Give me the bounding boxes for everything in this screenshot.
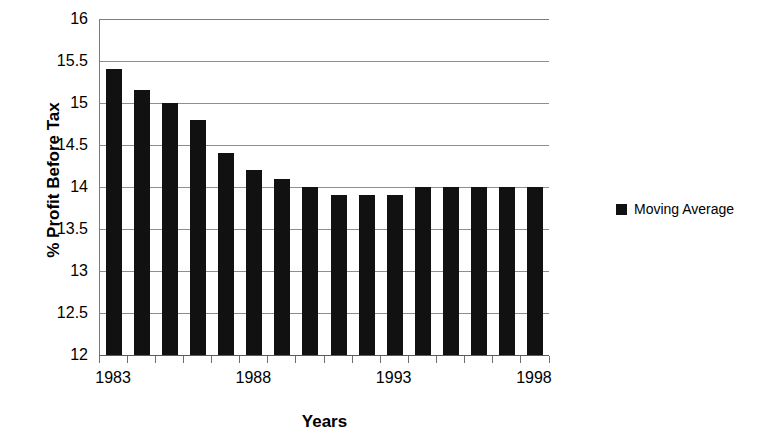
bar (302, 187, 318, 355)
x-axis-tick-label: 1988 (223, 369, 283, 387)
x-axis-tick (295, 356, 296, 363)
bar (443, 187, 459, 355)
x-axis-title: Years (99, 412, 550, 432)
x-axis-tick (99, 356, 100, 363)
bar (162, 103, 178, 355)
bar (218, 153, 234, 355)
x-axis-tick (267, 356, 268, 363)
bar (106, 69, 122, 355)
plot-area (99, 19, 549, 356)
y-axis-tick-label: 15.5 (30, 53, 88, 69)
x-axis-tick (211, 356, 212, 363)
square-marker-icon (616, 204, 627, 215)
y-axis-tick-label: 16 (30, 11, 88, 27)
legend-item-label: Moving Average (634, 202, 734, 216)
x-axis-tick (464, 356, 465, 363)
bar (190, 120, 206, 355)
bar (274, 179, 290, 355)
x-axis-tick (408, 356, 409, 363)
x-axis-tick (239, 356, 240, 363)
bar (415, 187, 431, 355)
y-axis-tick-label: 15 (30, 95, 88, 111)
bars-layer (100, 19, 549, 355)
x-axis-tick-label: 1983 (83, 369, 143, 387)
x-axis-tick (436, 356, 437, 363)
y-axis-tick-label: 12 (30, 347, 88, 363)
legend: Moving Average (616, 202, 734, 216)
x-axis-tick (492, 356, 493, 363)
y-axis-tick-label: 14.5 (30, 137, 88, 153)
bar-chart-figure: % Profit Before Tax 1615.51514.51413.513… (0, 0, 757, 443)
x-axis-tick (352, 356, 353, 363)
x-axis-ticks (99, 356, 550, 364)
bar (359, 195, 375, 355)
bar (387, 195, 403, 355)
x-axis-tick (155, 356, 156, 363)
bar (471, 187, 487, 355)
bar (499, 187, 515, 355)
y-axis-tick-label: 14 (30, 179, 88, 195)
y-axis-tick-label: 13.5 (30, 221, 88, 237)
x-axis-tick (380, 356, 381, 363)
x-axis-tick-label: 1993 (364, 369, 424, 387)
x-axis-tick (127, 356, 128, 363)
x-axis-tick (324, 356, 325, 363)
bar (134, 90, 150, 355)
y-axis-tick-label: 12.5 (30, 305, 88, 321)
bar (527, 187, 543, 355)
bar (246, 170, 262, 355)
x-axis-end-tick (549, 356, 550, 363)
x-axis-tick (520, 356, 521, 363)
y-axis-tick-labels: 1615.51514.51413.51312.512 (30, 19, 88, 355)
x-axis-tick (183, 356, 184, 363)
x-axis-tick-labels: 1983198819931998 (99, 369, 550, 393)
bar (331, 195, 347, 355)
x-axis-tick-label: 1998 (504, 369, 564, 387)
y-axis-tick-label: 13 (30, 263, 88, 279)
